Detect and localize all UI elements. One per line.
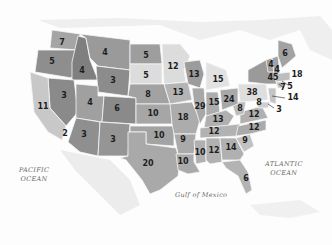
gulf-of-mexico-label: Gulf of Mexico <box>175 191 227 200</box>
state-label-il: 29 <box>194 103 205 111</box>
state-label-sd: 5 <box>143 72 149 80</box>
gulf-line1: Gulf of Mexico <box>175 191 227 200</box>
state-label-fl: 6 <box>243 175 249 183</box>
state-label-ms: 10 <box>194 149 205 157</box>
pacific-line1: PACIFIC <box>19 166 49 175</box>
state-label-ky: 13 <box>212 116 223 124</box>
state-label-mt: 4 <box>102 49 108 57</box>
state-label-nh: 4 <box>274 66 280 74</box>
state-label-wv: 8 <box>237 105 243 113</box>
state-label-ia: 13 <box>172 89 183 97</box>
state-label-nm: 3 <box>110 136 116 144</box>
atlantic-line1: ATLANTIC <box>265 160 303 169</box>
state-label-ne: 8 <box>145 91 151 99</box>
state-label-co: 6 <box>114 105 120 113</box>
state-label-mo: 18 <box>177 114 188 122</box>
pacific-line2: OCEAN <box>19 175 49 184</box>
state-label-ks: 10 <box>147 110 158 118</box>
state-label-ny: 45 <box>267 74 278 82</box>
state-label-ct: 7 <box>280 84 286 92</box>
state-label-vt: 4 <box>268 61 274 69</box>
state-label-nc: 12 <box>248 124 259 132</box>
us-electoral-map: 7544334611332558101020121318910132910151… <box>0 0 332 245</box>
state-label-va: 12 <box>248 111 259 119</box>
state-label-wa: 7 <box>59 39 65 47</box>
state-label-id: 4 <box>79 67 85 75</box>
state-label-ga: 14 <box>225 144 236 152</box>
state-label-ri: 5 <box>287 83 293 91</box>
state-OR <box>35 50 78 78</box>
state-label-oh: 24 <box>223 96 234 104</box>
state-label-tn: 12 <box>208 128 219 136</box>
state-label-tx: 20 <box>142 160 153 168</box>
state-label-nd: 5 <box>143 52 149 60</box>
state-label-socal: 2 <box>62 130 68 138</box>
pacific-ocean-label: PACIFIC OCEAN <box>19 166 49 184</box>
state-label-ok: 10 <box>153 132 164 140</box>
state-label-mn: 12 <box>167 63 178 71</box>
state-label-az: 3 <box>81 131 87 139</box>
atlantic-line2: OCEAN <box>265 169 303 178</box>
state-label-de: 3 <box>276 106 282 114</box>
state-label-nv: 3 <box>61 92 67 100</box>
state-label-wi: 13 <box>188 71 199 79</box>
atlantic-ocean-label: ATLANTIC OCEAN <box>265 160 303 178</box>
state-label-me: 6 <box>282 50 288 58</box>
state-label-ma: 18 <box>291 71 302 79</box>
state-label-nj: 14 <box>287 94 298 102</box>
state-label-ut: 4 <box>87 99 93 107</box>
state-label-al: 12 <box>208 147 219 155</box>
state-label-ca: 11 <box>37 103 48 111</box>
state-label-pa: 38 <box>246 89 257 97</box>
map-shapes <box>0 0 332 245</box>
state-label-mi: 15 <box>212 76 223 84</box>
state-label-in: 15 <box>208 99 219 107</box>
state-label-wy: 3 <box>110 77 116 85</box>
state-label-md: 8 <box>256 99 262 107</box>
state-label-ar: 9 <box>180 136 186 144</box>
state-label-la: 10 <box>177 158 188 166</box>
state-label-or: 5 <box>49 58 55 66</box>
state-label-sc: 9 <box>242 137 248 145</box>
